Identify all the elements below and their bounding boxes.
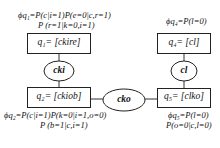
potential-q1-line1: ϕq₁=P(c|i=1)P(e=0|c,r=1) (18, 10, 111, 20)
potential-q2-line1: ϕq₂=P(c|i=1)P(k=0|i=1,o=0) (4, 110, 106, 120)
separator-cki-label: cki (44, 65, 74, 75)
potential-q5-line1: ϕq₅=P(l=0) (168, 110, 209, 120)
node-q1-label: q₁= [ckire] (28, 37, 90, 47)
node-q2-label: q₂= [ckiob] (28, 91, 90, 101)
potential-q2-line2: P (b=1|c,i=1) (40, 120, 88, 130)
node-q4-label: q₄= [cl] (158, 37, 210, 47)
separator-cl-label: cl (171, 65, 197, 75)
potential-q4-line1: ϕq₄=P(l=0) (166, 16, 207, 26)
potential-q1-line2: P (r=1|k=0,i=1) (38, 20, 95, 30)
node-q5-label: q₅= [clko] (158, 91, 210, 101)
potential-q5-line2: P(o=0|c,l=0) (166, 120, 212, 130)
separator-cko-label: cko (103, 94, 145, 104)
